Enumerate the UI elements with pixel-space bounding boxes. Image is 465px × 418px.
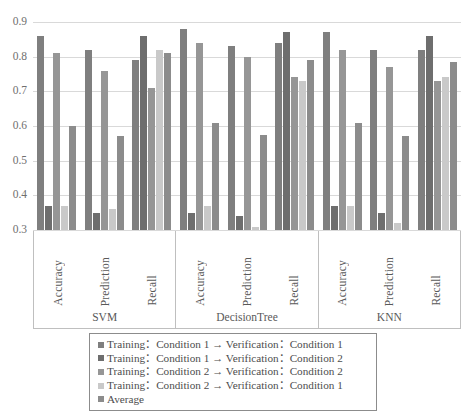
bar	[164, 53, 171, 230]
bar	[283, 32, 290, 230]
bar	[196, 43, 203, 230]
bar	[140, 36, 147, 230]
metric-group-accuracy	[318, 22, 366, 230]
metric-label-text: Accuracy	[336, 260, 348, 306]
metric-label-recall: Recall	[271, 231, 318, 306]
y-axis-tick-label: 0.5	[13, 155, 27, 167]
metric-group-recall	[271, 22, 319, 230]
algorithm-label: DecisionTree	[176, 306, 317, 328]
bar	[37, 36, 44, 230]
y-axis-tick-label: 0.7	[13, 86, 27, 98]
bar	[299, 81, 306, 230]
axis-cell-decisiontree: AccuracyPredictionRecallDecisionTree	[176, 231, 318, 328]
bar	[323, 32, 330, 230]
legend-item-4[interactable]: Average	[98, 392, 370, 406]
bar	[275, 43, 282, 230]
y-axis-tick-label: 0.4	[13, 190, 27, 202]
bar	[355, 123, 362, 230]
metric-label-prediction: Prediction	[81, 231, 128, 306]
bar	[204, 206, 211, 230]
chart-legend: Training：Condition 1 → Verification：Cond…	[89, 333, 377, 411]
legend-swatch-icon	[98, 396, 104, 402]
metric-label-text: Prediction	[241, 257, 253, 306]
axis-cell-svm: AccuracyPredictionRecallSVM	[34, 231, 176, 328]
bar	[61, 206, 68, 230]
metric-group-prediction	[81, 22, 129, 230]
bar	[370, 50, 377, 230]
bar	[307, 60, 314, 230]
bar	[434, 81, 441, 230]
metric-group-prediction	[366, 22, 414, 230]
legend-item-label: Training：Condition 1 → Verification：Cond…	[107, 339, 343, 350]
metric-label-recall: Recall	[128, 231, 175, 306]
bar	[53, 53, 60, 230]
metric-label-accuracy: Accuracy	[319, 231, 366, 306]
bar	[180, 29, 187, 230]
metric-group-accuracy	[33, 22, 81, 230]
metric-label-text: Prediction	[383, 257, 395, 306]
bar	[418, 50, 425, 230]
bar	[117, 136, 124, 230]
bar	[331, 206, 338, 230]
metric-label-text: Recall	[288, 275, 300, 306]
legend-item-1[interactable]: Training：Condition 1 → Verification：Cond…	[98, 352, 370, 366]
algorithm-block-knn	[318, 22, 461, 230]
bar	[156, 50, 163, 230]
bar	[339, 50, 346, 230]
bar	[402, 136, 409, 230]
legend-swatch-icon	[98, 355, 104, 361]
bar	[132, 60, 139, 230]
legend-item-0[interactable]: Training：Condition 1 → Verification：Cond…	[98, 338, 370, 352]
legend-item-2[interactable]: Training：Condition 2 → Verification：Cond…	[98, 365, 370, 379]
axis-cell-knn: AccuracyPredictionRecallKNN	[319, 231, 460, 328]
bar-groups	[33, 22, 461, 230]
bar	[378, 213, 385, 230]
metric-group-prediction	[223, 22, 271, 230]
metric-label-text: Recall	[146, 275, 158, 306]
bar	[426, 36, 433, 230]
bar	[252, 227, 259, 230]
bar	[442, 77, 449, 230]
bar	[93, 213, 100, 230]
metric-label-row: AccuracyPredictionRecall	[176, 231, 317, 306]
legend-item-label: Training：Condition 1 → Verification：Cond…	[107, 353, 343, 364]
legend-swatch-icon	[98, 342, 104, 348]
legend-item-label: Average	[107, 394, 144, 405]
bar	[45, 206, 52, 230]
bar	[101, 71, 108, 230]
algorithm-label: SVM	[34, 306, 175, 328]
legend-item-3[interactable]: Training：Condition 2 → Verification：Cond…	[98, 379, 370, 393]
algorithm-label: KNN	[319, 306, 460, 328]
bar	[109, 209, 116, 230]
metric-label-accuracy: Accuracy	[176, 231, 223, 306]
bar	[347, 206, 354, 230]
y-axis-tick-label: 0.3	[13, 224, 27, 236]
y-axis-tick-label: 0.6	[13, 120, 27, 132]
y-axis-tick-label: 0.9	[13, 16, 27, 28]
y-axis-tick-label: 0.8	[13, 51, 27, 63]
bar	[188, 213, 195, 230]
metric-label-prediction: Prediction	[223, 231, 270, 306]
category-axis: AccuracyPredictionRecallSVMAccuracyPredi…	[33, 231, 461, 329]
metric-label-row: AccuracyPredictionRecall	[319, 231, 460, 306]
y-axis-labels: 0.90.80.70.60.50.40.3	[0, 22, 30, 230]
bar	[386, 67, 393, 230]
metric-group-recall	[128, 22, 176, 230]
bar	[394, 223, 401, 230]
legend-item-label: Training：Condition 2 → Verification：Cond…	[107, 380, 343, 391]
legend-swatch-icon	[98, 383, 104, 389]
bar	[236, 216, 243, 230]
metric-group-accuracy	[176, 22, 224, 230]
metric-label-row: AccuracyPredictionRecall	[34, 231, 175, 306]
bar	[291, 77, 298, 230]
bar	[260, 135, 267, 230]
bar	[228, 46, 235, 230]
bar	[450, 62, 457, 230]
metric-label-recall: Recall	[413, 231, 460, 306]
metric-label-accuracy: Accuracy	[34, 231, 81, 306]
algorithm-block-decisiontree	[176, 22, 319, 230]
metric-label-text: Recall	[430, 275, 442, 306]
metric-label-text: Accuracy	[52, 260, 64, 306]
bar-chart: 0.90.80.70.60.50.40.3 AccuracyPrediction…	[0, 0, 465, 418]
bar	[212, 123, 219, 230]
